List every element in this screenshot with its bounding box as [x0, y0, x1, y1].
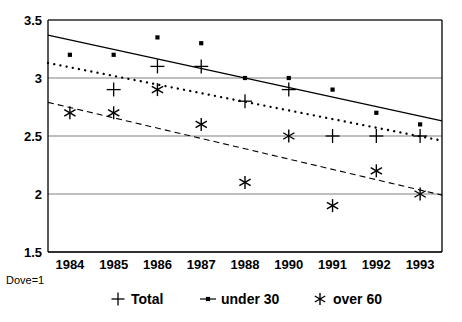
xtick-label: 1984 — [55, 257, 85, 272]
marker-square — [287, 76, 291, 80]
legend-label: Total — [131, 291, 163, 307]
chart-caption: Dove=1 — [6, 274, 44, 286]
chart-legend: Totalunder 30over 60 — [112, 291, 383, 307]
legend-entry: Total — [112, 291, 164, 307]
legend-entry: over 60 — [315, 291, 382, 307]
ytick-label: 3.5 — [24, 13, 42, 28]
series-under-30 — [68, 35, 422, 126]
ytick-label: 1.5 — [24, 245, 42, 260]
xtick-label: 1987 — [187, 257, 216, 272]
marker-square — [330, 88, 334, 92]
x-tick-labels: 198419851986198719881990199119921993 — [55, 257, 434, 272]
xtick-label: 1985 — [99, 257, 128, 272]
xtick-label: 1988 — [231, 257, 260, 272]
marker-square — [112, 53, 116, 57]
xtick-label: 1990 — [274, 257, 303, 272]
legend-entry: under 30 — [200, 291, 280, 307]
xtick-label: 1991 — [318, 257, 347, 272]
xtick-label: 1992 — [362, 257, 391, 272]
xtick-label: 1986 — [143, 257, 172, 272]
ytick-label: 3 — [35, 71, 42, 86]
series-total — [107, 59, 427, 143]
ytick-label: 2 — [35, 187, 42, 202]
legend-label: under 30 — [221, 291, 280, 307]
marker-square — [243, 76, 247, 80]
line-scatter-chart: 1.522.533.519841985198619871988199019911… — [0, 0, 462, 322]
chart-container: 1.522.533.519841985198619871988199019911… — [0, 0, 462, 322]
marker-square — [68, 53, 72, 57]
marker-square — [418, 122, 422, 126]
data-points — [64, 35, 427, 212]
marker-square — [199, 41, 203, 45]
ytick-label: 2.5 — [24, 129, 42, 144]
legend-label: over 60 — [333, 291, 382, 307]
marker-square — [155, 35, 159, 39]
marker-square — [374, 111, 378, 115]
marker-square — [206, 297, 210, 301]
xtick-label: 1993 — [406, 257, 435, 272]
trend-lines — [48, 35, 442, 195]
